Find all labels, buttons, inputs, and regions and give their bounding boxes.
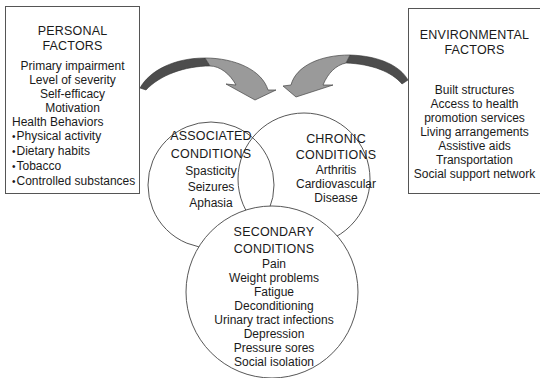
environmental-item: Living arrangements	[409, 125, 540, 139]
personal-item: Motivation	[6, 101, 139, 115]
personal-factors-title-1: PERSONAL	[6, 24, 139, 39]
arrow-right-head	[283, 55, 350, 97]
health-behavior-item: Dietary habits	[12, 144, 139, 159]
secondary-item: Urinary tract infections	[212, 313, 336, 327]
environmental-factors-title-1: ENVIRONMENTAL	[409, 28, 540, 43]
secondary-conditions-text: SECONDARY CONDITIONS Pain Weight problem…	[212, 223, 336, 369]
environmental-factors-box: ENVIRONMENTAL FACTORS Built structures A…	[408, 8, 540, 194]
health-behaviors-label: Health Behaviors	[12, 115, 139, 129]
chronic-conditions-text: CHRONIC CONDITIONS Arthritis Cardiovascu…	[286, 131, 386, 205]
environmental-item: Transportation	[409, 153, 540, 167]
personal-item: Level of severity	[6, 73, 139, 87]
personal-item: Primary impairment	[6, 59, 139, 73]
chronic-title-2: CONDITIONS	[286, 147, 386, 163]
secondary-item: Pain	[212, 257, 336, 271]
secondary-item: Fatigue	[212, 285, 336, 299]
secondary-title-2: CONDITIONS	[212, 241, 336, 257]
chronic-item: Arthritis	[286, 163, 386, 177]
associated-item: Aphasia	[161, 195, 261, 211]
health-behavior-item: Controlled substances	[12, 174, 139, 189]
associated-item: Spasticity	[161, 163, 261, 179]
secondary-item: Weight problems	[212, 271, 336, 285]
chronic-item: Disease	[286, 191, 386, 205]
environmental-item: Assistive aids	[409, 139, 540, 153]
environmental-item: Access to health	[409, 97, 540, 111]
arrow-left-dark-band	[140, 58, 210, 90]
environmental-item: Social support network	[409, 167, 540, 181]
secondary-item: Social isolation	[212, 355, 336, 369]
arrow-left-head	[205, 58, 276, 100]
chronic-item: Cardiovascular	[286, 177, 386, 191]
secondary-item: Deconditioning	[212, 299, 336, 313]
health-behavior-item: Tobacco	[12, 159, 139, 174]
arrow-environmental-to-conditions	[283, 55, 408, 97]
arrow-personal-to-conditions	[140, 58, 276, 100]
secondary-title-1: SECONDARY	[212, 223, 336, 241]
personal-item: Self-efficacy	[6, 87, 139, 101]
secondary-item: Depression	[212, 327, 336, 341]
chronic-title-1: CHRONIC	[286, 131, 386, 147]
associated-conditions-text: ASSOCIATED CONDITIONS Spasticity Seizure…	[161, 127, 261, 211]
secondary-item: Pressure sores	[212, 341, 336, 355]
environmental-item: promotion services	[409, 111, 540, 125]
personal-factors-box: PERSONAL FACTORS Primary impairment Leve…	[5, 6, 140, 194]
associated-title-2: CONDITIONS	[161, 145, 261, 163]
environmental-item: Built structures	[409, 83, 540, 97]
associated-item: Seizures	[161, 179, 261, 195]
health-behavior-item: Physical activity	[12, 129, 139, 144]
environmental-factors-title-2: FACTORS	[409, 43, 540, 58]
associated-title-1: ASSOCIATED	[161, 127, 261, 145]
arrow-right-dark-band	[346, 55, 408, 84]
personal-factors-title-2: FACTORS	[6, 39, 139, 54]
